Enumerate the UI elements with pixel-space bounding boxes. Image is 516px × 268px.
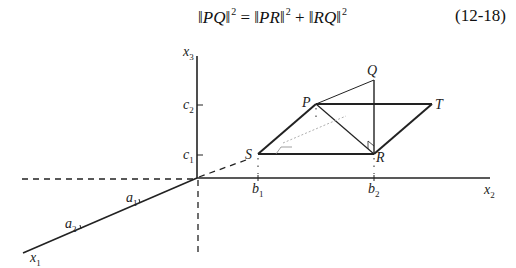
right-angle-mark-R bbox=[368, 141, 374, 149]
point-label-P: P bbox=[301, 95, 311, 110]
point-label-R: R bbox=[375, 150, 385, 165]
b2-label: b2 bbox=[368, 181, 380, 199]
neg-x1-axis bbox=[199, 160, 246, 177]
coordinate-diagram: x3 c2 c1 b1 b2 x2 a1 a2 x1 Q P T S R bbox=[0, 0, 516, 268]
point-label-T: T bbox=[435, 97, 444, 112]
c1-label: c1 bbox=[183, 147, 194, 165]
point-label-Q: Q bbox=[367, 63, 377, 78]
in-plane-dotted-line bbox=[283, 116, 346, 143]
c2-label: c2 bbox=[183, 97, 194, 115]
edge-SP bbox=[258, 104, 316, 154]
edge-PQ bbox=[316, 80, 374, 104]
edge-TR bbox=[374, 104, 432, 154]
x3-label: x3 bbox=[182, 44, 194, 62]
point-label-S: S bbox=[245, 147, 252, 162]
a2-label: a2 bbox=[65, 216, 77, 234]
x1-label: x1 bbox=[29, 250, 41, 268]
x1-axis bbox=[23, 178, 197, 253]
x2-label: x2 bbox=[483, 182, 495, 200]
angle-mark-S bbox=[276, 147, 292, 154]
b1-label: b1 bbox=[252, 181, 264, 199]
edge-PR bbox=[316, 104, 374, 154]
